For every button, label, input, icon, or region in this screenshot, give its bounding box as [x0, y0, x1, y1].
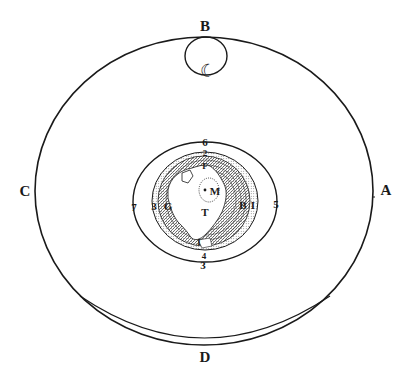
- center-dot: [204, 189, 207, 192]
- diagram-figure: [0, 0, 412, 380]
- diagram-canvas: B A D C ☾ 6 5 3 4 7 M T F 2 3 G B I I: [0, 0, 412, 380]
- label-6: 6: [202, 137, 208, 148]
- label-b-earth: B: [239, 200, 246, 211]
- label-d: D: [200, 350, 211, 365]
- label-b: B: [200, 19, 210, 34]
- label-c: C: [20, 184, 31, 199]
- label-g: G: [164, 201, 173, 212]
- label-i-right: I: [251, 200, 255, 211]
- label-3-left: 3: [151, 201, 157, 212]
- label-5: 5: [273, 199, 279, 210]
- outer-orbit-bottom-emphasis: [80, 296, 330, 338]
- label-m: M: [210, 186, 220, 197]
- label-a: A: [381, 183, 392, 198]
- label-7: 7: [131, 202, 137, 213]
- label-i-bottom: I: [197, 238, 201, 247]
- label-t: T: [201, 207, 208, 218]
- label-2: 2: [203, 149, 208, 158]
- moon-crescent-icon: ☾: [200, 62, 216, 80]
- label-3-bottom: 3: [200, 260, 206, 271]
- label-f: F: [202, 162, 208, 171]
- label-4: 4: [202, 252, 207, 261]
